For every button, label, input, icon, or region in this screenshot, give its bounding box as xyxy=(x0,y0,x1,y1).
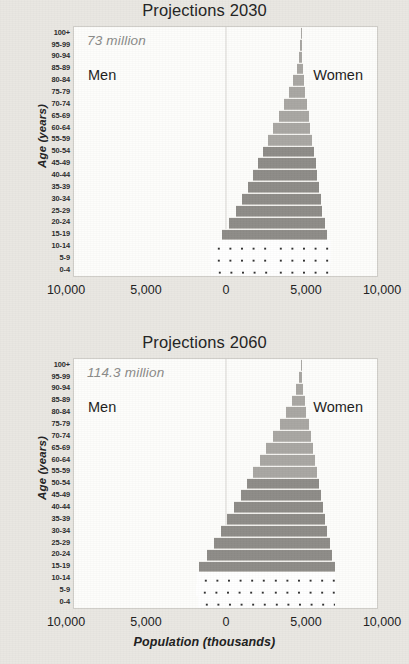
y-tick-label: 40-44 xyxy=(52,170,70,179)
bar-men xyxy=(286,406,296,418)
bar-women xyxy=(281,489,321,501)
y-tick-label: 20-24 xyxy=(52,549,70,558)
y-tick-label: 80-84 xyxy=(52,75,70,84)
bar-women xyxy=(297,86,305,98)
pyramid-row xyxy=(74,584,377,596)
bar-men xyxy=(207,549,270,561)
y-tick-label: 10-14 xyxy=(52,573,70,582)
pyramid-row xyxy=(74,383,377,395)
pyramid-row xyxy=(74,489,377,501)
y-axis-title-2030: Age (years) xyxy=(36,76,48,196)
bar-men xyxy=(273,430,292,442)
bar-men xyxy=(210,252,272,264)
bar-women xyxy=(273,537,330,549)
bar-men xyxy=(289,86,297,98)
x-tick-label: 10,000 xyxy=(47,283,85,297)
bar-men xyxy=(253,169,286,181)
bar-men xyxy=(229,217,277,229)
bar-women xyxy=(298,395,305,407)
chart-title-2060: Projections 2060 xyxy=(0,333,409,352)
bar-women xyxy=(284,181,319,193)
bar-women xyxy=(300,51,302,63)
y-tick-label: 65-69 xyxy=(52,443,70,452)
x-axis-2060: 10,0005,00005,00010,000 xyxy=(0,615,409,633)
total-population-label-2030: 73 million xyxy=(87,33,146,48)
pyramid-panel-2030: Projections 2030 Age (years) 0-45-910-14… xyxy=(0,0,409,332)
bar-men xyxy=(221,525,275,537)
total-population-label-2060: 114.3 million xyxy=(87,365,164,380)
bar-women xyxy=(275,525,328,537)
bar-women xyxy=(267,584,336,596)
y-tick-label: 85-89 xyxy=(52,63,70,72)
bar-men xyxy=(196,584,267,596)
y-tick-label: 30-34 xyxy=(52,194,70,203)
bar-men xyxy=(227,513,277,525)
y-tick-label: 90-94 xyxy=(52,383,70,392)
bar-women xyxy=(285,169,317,181)
y-tick-label: 55-59 xyxy=(52,134,70,143)
bar-women xyxy=(268,596,335,608)
bar-women xyxy=(275,229,327,241)
y-axis-2030: Age (years) 0-45-910-1415-1920-2425-2930… xyxy=(30,26,72,277)
plot-area-2060: 114.3 million Men Women xyxy=(73,358,378,609)
y-tick-label: 80-84 xyxy=(52,407,70,416)
bar-men xyxy=(211,264,272,276)
y-tick-label: 100+ xyxy=(54,360,70,369)
y-tick-label: 0-4 xyxy=(60,265,70,274)
y-tick-label: 75-79 xyxy=(52,419,70,428)
pyramid-row xyxy=(74,466,377,478)
x-tick-label: 5,000 xyxy=(130,615,161,629)
pyramid-row xyxy=(74,157,377,169)
x-tick-label: 5,000 xyxy=(290,283,321,297)
y-tick-label: 10-14 xyxy=(52,241,70,250)
bar-women xyxy=(295,98,307,110)
pyramid-bars-2060 xyxy=(74,359,377,608)
bar-women xyxy=(272,240,331,252)
bar-women xyxy=(272,264,330,276)
pyramid-row xyxy=(74,146,377,158)
y-tick-label: 95-99 xyxy=(52,372,70,381)
pyramid-row xyxy=(74,561,377,573)
bar-women xyxy=(287,454,315,466)
pyramid-row xyxy=(74,169,377,181)
y-tick-label: 30-34 xyxy=(52,526,70,535)
pyramid-row xyxy=(74,418,377,430)
bar-women xyxy=(278,217,325,229)
y-tick-label: 85-89 xyxy=(52,395,70,404)
bar-men xyxy=(258,157,287,169)
bar-men xyxy=(273,122,292,134)
bar-women xyxy=(299,383,303,395)
bar-women xyxy=(272,252,331,264)
bar-women xyxy=(292,430,311,442)
y-tick-label: 25-29 xyxy=(52,538,70,547)
women-label-2030: Women xyxy=(313,67,363,83)
bar-men xyxy=(260,454,288,466)
bar-women xyxy=(289,146,314,158)
y-tick-label: 60-64 xyxy=(52,123,70,132)
y-tick-label: 35-39 xyxy=(52,182,70,191)
bar-women xyxy=(280,205,322,217)
bar-men xyxy=(263,146,289,158)
pyramid-row xyxy=(74,110,377,122)
pyramid-bars-2030 xyxy=(74,27,377,276)
pyramid-row xyxy=(74,51,377,63)
pyramid-row xyxy=(74,525,377,537)
y-tick-label: 100+ xyxy=(54,28,70,37)
pyramid-row xyxy=(74,572,377,584)
y-tick-label: 70-74 xyxy=(52,99,70,108)
y-tick-label: 45-49 xyxy=(52,490,70,499)
pyramid-row xyxy=(74,252,377,264)
y-tick-label: 65-69 xyxy=(52,111,70,120)
y-tick-label: 0-4 xyxy=(60,597,70,606)
bar-men xyxy=(198,596,268,608)
bar-women xyxy=(279,501,323,513)
pyramid-row xyxy=(74,549,377,561)
bar-men xyxy=(284,98,295,110)
x-axis-title: Population (thousands) xyxy=(0,635,409,649)
pyramid-row xyxy=(74,205,377,217)
y-tick-label: 40-44 xyxy=(52,502,70,511)
bar-men xyxy=(247,478,283,490)
y-tick-label: 25-29 xyxy=(52,206,70,215)
men-label-2030: Men xyxy=(88,67,116,83)
bar-men xyxy=(222,229,276,241)
